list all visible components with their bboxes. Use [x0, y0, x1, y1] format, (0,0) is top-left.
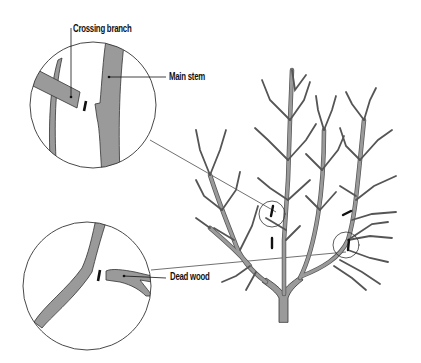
label-dead-wood: Dead wood: [170, 271, 209, 283]
dead-wood-stub: [106, 269, 152, 296]
cut-mark: [84, 101, 86, 111]
cut-mark: [98, 270, 100, 281]
cut-mark: [271, 206, 273, 216]
thin-branch: [49, 58, 62, 160]
label-crossing-branch: Crossing branch: [73, 23, 131, 35]
main-stem: [95, 40, 124, 175]
pruning-diagram: [0, 0, 421, 363]
stem: [34, 214, 108, 328]
cut-mark: [343, 211, 351, 215]
label-main-stem: Main stem: [169, 71, 205, 83]
cut-mark: [348, 240, 349, 250]
upper-detail-circle: [25, 28, 276, 212]
shrub-illustration: [196, 70, 396, 322]
